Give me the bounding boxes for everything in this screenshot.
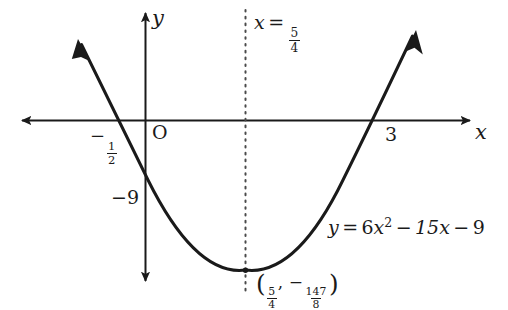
vertex-y-fraction: 1478 — [304, 287, 327, 310]
parabola-right-arrowhead — [405, 30, 423, 55]
axis-of-symmetry-label: x=54 — [254, 13, 301, 54]
fraction-numerator: 147 — [304, 287, 327, 299]
y-intercept-label: −9 — [111, 188, 139, 207]
x-axis-label: x — [475, 122, 487, 143]
parabola-left-arrowhead — [72, 39, 91, 62]
vertex-comma: , — [278, 272, 283, 292]
open-paren: ( — [256, 269, 266, 298]
fraction-denominator: 4 — [289, 40, 300, 54]
equation-constant: 9 — [473, 216, 485, 238]
curve-equation-label: y=6x2−15x−9 — [328, 218, 485, 237]
fraction-numerator: 5 — [267, 287, 277, 299]
x-intercept-left-label: −12 — [90, 127, 118, 166]
equation-term-2: 15x — [415, 216, 450, 238]
fraction-numerator: 5 — [289, 27, 300, 40]
fraction-numerator: 1 — [107, 141, 117, 153]
symmetry-variable: x — [254, 11, 265, 33]
equation-lhs: y — [328, 216, 339, 238]
vertex-point-marker — [243, 268, 248, 273]
y-axis-label: y — [152, 8, 164, 29]
fraction-denominator: 8 — [311, 298, 321, 310]
equation-equals: = — [342, 216, 358, 238]
fraction-five-fourths: 54 — [289, 27, 300, 54]
origin-label: O — [152, 123, 168, 142]
equation-coefficient: 6 — [361, 216, 373, 238]
vertex-coordinates-label: (54, −1478) — [256, 272, 339, 310]
vertex-x-fraction: 54 — [267, 287, 277, 310]
equation-operator-2: − — [453, 216, 469, 238]
minus-sign: − — [90, 125, 105, 146]
close-paren: ) — [329, 269, 339, 298]
parabola-figure: y x O −12 3 −9 x=54 y=6x2−15x−9 (54, −14… — [0, 0, 508, 310]
equation-exponent: 2 — [384, 215, 392, 230]
x-intercept-right-label: 3 — [385, 125, 397, 144]
equation-variable: x — [374, 216, 385, 238]
symmetry-equals: = — [268, 11, 284, 33]
vertex-y-sign: − — [289, 272, 303, 292]
fraction-one-half: 12 — [107, 141, 117, 167]
equation-operator-1: − — [396, 216, 412, 238]
fraction-denominator: 2 — [107, 153, 117, 166]
fraction-denominator: 4 — [267, 298, 277, 310]
